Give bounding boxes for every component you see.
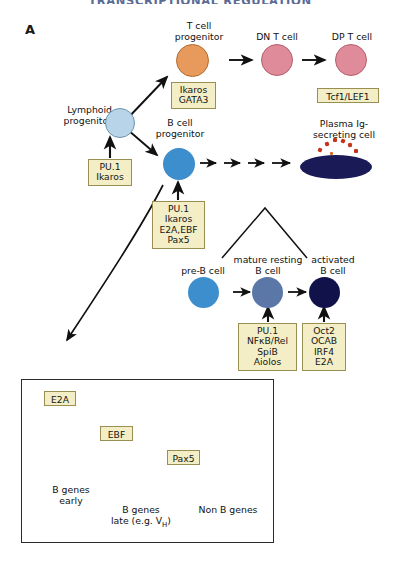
arrow-b-progenitor-to-panel-b <box>67 185 163 340</box>
factor-box-dp-t-cell[interactable]: Tcf1/LEF1 <box>317 88 379 103</box>
factor-box-pax5[interactable]: Pax5 <box>167 450 200 465</box>
factor-box-mature-resting-b-cell[interactable]: PU.1 NFκB/Rel SpiB Aiolos <box>238 323 297 371</box>
cell-lymphoid-progenitor <box>105 108 135 138</box>
label-dp-t-cell: DP T cell <box>314 31 390 42</box>
header-title: TRANSCRIPTIONAL REGULATION <box>0 0 400 4</box>
label-mature-resting-b-cell: mature resting B cell <box>226 254 310 276</box>
factor-box-e2a[interactable]: E2A <box>44 391 76 406</box>
ig-secretion-dots <box>300 138 374 156</box>
cell-activated-b-cell <box>309 277 340 308</box>
label-t-cell-progenitor: T cell progenitor <box>156 20 242 42</box>
cell-pre-b-cell <box>188 277 219 308</box>
label-b-cell-progenitor: B cell progenitor <box>140 117 220 139</box>
cell-plasma-ig-secreting-cell <box>300 155 372 179</box>
branch-connector-v <box>222 208 307 258</box>
factor-box-t-progenitor[interactable]: Ikaros GATA3 <box>171 82 216 109</box>
label-non-b-genes: Non B genes <box>190 504 266 515</box>
cell-dp-t-cell <box>335 44 367 76</box>
figure-transcriptional-regulation: TRANSCRIPTIONAL REGULATION <box>0 0 400 562</box>
cell-t-cell-progenitor <box>176 44 209 77</box>
label-b-genes-late: B genes late (e.g. VH) <box>94 504 188 531</box>
label-activated-b-cell: activated B cell <box>300 254 366 276</box>
factor-box-b-cell-progenitor[interactable]: PU.1 Ikaros E2A,EBF Pax5 <box>152 201 205 249</box>
cell-dn-t-cell <box>261 44 293 76</box>
label-plasma-ig-secreting-cell: Plasma Ig- secreting cell <box>295 118 393 140</box>
label-b-genes-early: B genes early <box>38 484 104 506</box>
label-lymphoid-progenitor: Lymphoid progenitor <box>12 104 112 126</box>
factor-box-lymphoid-progenitor[interactable]: PU.1 Ikaros <box>88 159 132 186</box>
cell-mature-resting-b-cell <box>252 277 283 308</box>
factor-box-ebf[interactable]: EBF <box>100 426 133 441</box>
factor-box-activated-b-cell[interactable]: Oct2 OCAB IRF4 E2A <box>302 323 346 371</box>
cell-b-cell-progenitor <box>163 148 195 180</box>
panel-a-letter: A <box>25 22 35 37</box>
label-dn-t-cell: DN T cell <box>239 31 315 42</box>
